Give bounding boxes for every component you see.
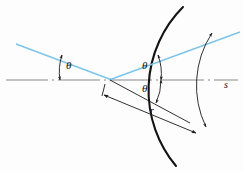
theta-incident-label: θ bbox=[66, 60, 71, 71]
radius-extension-line bbox=[102, 84, 105, 96]
radius-label: r bbox=[150, 106, 154, 116]
angle-arc-incident bbox=[59, 55, 62, 80]
arc-length-label: s bbox=[224, 80, 228, 90]
reflected-light-ray bbox=[109, 32, 240, 80]
theta-reflected-label: θ bbox=[142, 60, 147, 71]
incident-light-ray bbox=[16, 44, 112, 80]
theta-radius-label: θ bbox=[142, 83, 147, 94]
normal-radius-ray bbox=[110, 80, 190, 123]
angle-arc-radius bbox=[156, 80, 161, 103]
angle-arc-reflected bbox=[158, 55, 161, 80]
diagram-canvas bbox=[0, 0, 243, 173]
concave-mirror-surface bbox=[149, 7, 183, 166]
reflection-diagram-figure: θ θ θ r s bbox=[0, 0, 243, 173]
